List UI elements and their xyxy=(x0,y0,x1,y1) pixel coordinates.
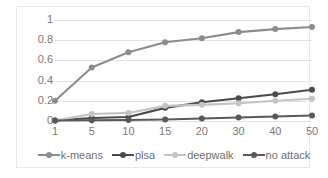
x-axis-tick-label: 50 xyxy=(306,125,318,137)
y-axis-tick-label: 0 xyxy=(19,115,53,126)
data-point xyxy=(272,26,278,32)
legend-item-k-means[interactable]: k-means xyxy=(38,149,103,161)
data-point xyxy=(272,113,278,119)
x-axis-tick-label: 5 xyxy=(89,125,95,137)
legend-dot-icon xyxy=(172,152,178,158)
x-axis-tick-label: 20 xyxy=(196,125,208,137)
y-axis-tick-label: 0.2 xyxy=(19,95,53,106)
plot-area xyxy=(55,20,312,121)
data-point xyxy=(309,96,315,102)
data-point xyxy=(199,115,205,121)
chart-legend: k-meansplsadeepwalkno attack xyxy=(37,147,311,163)
data-point xyxy=(309,112,315,118)
legend-marker-icon xyxy=(38,150,60,160)
data-point xyxy=(162,103,168,109)
legend-item-deepwalk[interactable]: deepwalk xyxy=(164,149,233,161)
x-axis-labels: 15101520304050 xyxy=(55,125,312,141)
data-point xyxy=(89,111,95,117)
legend-dot-icon xyxy=(251,152,257,158)
data-point xyxy=(125,117,131,123)
series-lines xyxy=(55,20,312,121)
data-point xyxy=(89,117,95,123)
legend-item-no-attack[interactable]: no attack xyxy=(243,149,311,161)
y-axis-tick-label: 0.4 xyxy=(19,75,53,86)
data-point xyxy=(199,102,205,108)
legend-label: plsa xyxy=(135,149,155,161)
legend-label: no attack xyxy=(266,149,311,161)
data-point xyxy=(236,114,242,120)
data-point xyxy=(125,110,131,116)
y-axis-tick-label: 0.8 xyxy=(19,34,53,45)
legend-marker-icon xyxy=(112,150,134,160)
legend-marker-icon xyxy=(243,150,265,160)
legend-label: k-means xyxy=(61,149,103,161)
data-point xyxy=(162,39,168,45)
x-axis-tick-label: 40 xyxy=(269,125,281,137)
y-axis-tick-label: 0.6 xyxy=(19,54,53,65)
data-point xyxy=(272,91,278,97)
data-point xyxy=(52,98,58,104)
legend-dot-icon xyxy=(46,152,52,158)
legend-dot-icon xyxy=(120,152,126,158)
data-point xyxy=(125,49,131,55)
data-point xyxy=(309,24,315,30)
data-point xyxy=(162,116,168,122)
data-point xyxy=(309,87,315,93)
y-axis-labels: 10.80.60.40.20 xyxy=(17,20,53,121)
legend-marker-icon xyxy=(164,150,186,160)
chart-container: 10.80.60.40.20 15101520304050 k-meanspls… xyxy=(16,6,310,168)
y-axis-tick-label: 1 xyxy=(19,14,53,25)
data-point xyxy=(52,117,58,123)
data-point xyxy=(236,100,242,106)
data-point xyxy=(199,35,205,41)
legend-item-plsa[interactable]: plsa xyxy=(112,149,155,161)
data-point xyxy=(89,64,95,70)
series-line xyxy=(55,27,312,101)
legend-label: deepwalk xyxy=(187,149,233,161)
x-axis-tick-label: 30 xyxy=(232,125,244,137)
data-point xyxy=(272,98,278,104)
x-axis-tick-label: 15 xyxy=(159,125,171,137)
x-axis-tick-label: 1 xyxy=(52,125,58,137)
data-point xyxy=(236,29,242,35)
x-axis-tick-label: 10 xyxy=(122,125,134,137)
